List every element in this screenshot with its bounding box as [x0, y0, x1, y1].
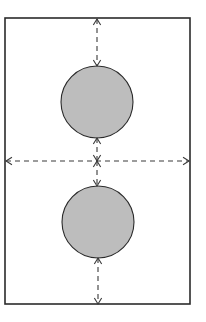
bottom-circle: [62, 186, 134, 258]
top-circle: [61, 66, 133, 138]
layout-diagram: [0, 0, 206, 322]
top-gap-arrow: [93, 19, 100, 66]
arrowhead-icon: [93, 60, 100, 66]
bottom-gap-arrow: [94, 258, 101, 304]
dimension-layer: [6, 19, 189, 304]
middle-top-gap-arrow: [93, 138, 100, 161]
middle-bottom-gap-arrow: [93, 161, 100, 186]
